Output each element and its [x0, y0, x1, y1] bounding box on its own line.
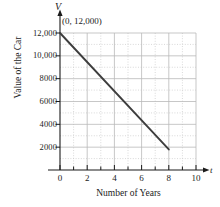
x-tick-label: 4 [103, 173, 125, 184]
y-axis-symbol: V [55, 1, 61, 12]
car-depreciation-chart: 12,000 10,000 8000 6000 4000 2000 0 2 4 … [0, 0, 220, 207]
y-tick-label: 2000 [15, 143, 57, 152]
x-tick-label: 2 [76, 173, 98, 184]
y-axis-title: Value of the Car [13, 8, 24, 128]
x-axis-symbol: t [210, 165, 213, 175]
x-tick-label: 8 [158, 173, 180, 184]
x-tick-label: 6 [131, 173, 153, 184]
arrow-right-icon [203, 167, 210, 172]
x-axis [48, 167, 210, 172]
x-axis-title: Number of Years [46, 188, 211, 199]
point-annotation: (0, 12,000) [62, 16, 102, 26]
x-tick-label: 0 [49, 173, 71, 184]
x-tick-label: 10 [185, 173, 207, 184]
